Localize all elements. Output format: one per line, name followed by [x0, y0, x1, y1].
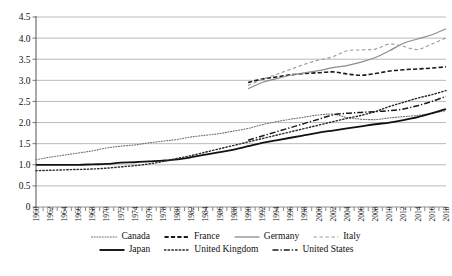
- legend-item-united-kingdom[interactable]: United Kingdom: [164, 244, 258, 255]
- legend-label-france: France: [194, 231, 220, 242]
- x-tick-label: 1986: [216, 206, 225, 221]
- y-tick-label: 3.0: [19, 76, 31, 86]
- x-tick-label: 1966: [74, 206, 83, 221]
- y-tick-label: 4.5: [19, 12, 31, 22]
- series-line-japan: [36, 109, 446, 165]
- y-tick-label: 1.5: [19, 139, 31, 149]
- x-tick-label: 2004: [343, 206, 352, 221]
- x-tick-label: 2012: [399, 206, 408, 221]
- x-tick-label: 1998: [300, 206, 309, 221]
- x-tick-label: 1962: [46, 206, 55, 221]
- y-tick-label: 0.5: [19, 181, 31, 191]
- legend-swatch-japan: [99, 245, 125, 255]
- legend-row-2: JapanUnited KingdomUnited States: [92, 244, 361, 255]
- x-tick-label: 2006: [357, 206, 366, 221]
- legend-swatch-united-states: [272, 245, 298, 255]
- legend-label-united-kingdom: United Kingdom: [194, 244, 258, 255]
- legend-row-1: CanadaFranceGermanyItaly: [84, 231, 367, 242]
- legend-swatch-canada: [91, 232, 117, 242]
- series-line-united-kingdom: [36, 90, 446, 170]
- legend-swatch-germany: [234, 232, 260, 242]
- x-tick-label: 2010: [385, 206, 394, 221]
- x-axis-ticks: 1960196219641966196819701972197419761978…: [32, 206, 451, 221]
- x-tick-label: 1984: [201, 206, 210, 221]
- x-tick-label: 2008: [371, 206, 380, 221]
- legend-label-japan: Japan: [129, 244, 151, 255]
- series-line-canada: [36, 111, 446, 160]
- legend-label-italy: Italy: [343, 231, 360, 242]
- x-tick-label: 1960: [32, 206, 41, 221]
- x-tick-label: 2002: [329, 206, 338, 221]
- y-tick-label: 0: [26, 202, 31, 212]
- y-axis-ticks: 00.51.01.52.02.53.03.54.04.5: [19, 12, 36, 212]
- chart-legend: CanadaFranceGermanyItalyJapanUnited King…: [0, 231, 452, 255]
- legend-label-united-states: United States: [302, 244, 353, 255]
- legend-swatch-italy: [313, 232, 339, 242]
- legend-item-france[interactable]: France: [164, 231, 220, 242]
- x-tick-label: 1970: [102, 206, 111, 221]
- x-tick-label: 1994: [272, 206, 281, 221]
- x-tick-label: 2018: [442, 206, 451, 221]
- x-tick-label: 1992: [258, 206, 267, 221]
- y-tick-label: 4.0: [19, 34, 31, 44]
- x-tick-label: 2000: [315, 206, 324, 221]
- y-tick-label: 2.0: [19, 118, 31, 128]
- x-tick-label: 1982: [187, 206, 196, 221]
- x-tick-label: 1996: [286, 206, 295, 221]
- legend-label-germany: Germany: [264, 231, 299, 242]
- legend-item-canada[interactable]: Canada: [91, 231, 150, 242]
- legend-swatch-france: [164, 232, 190, 242]
- y-tick-label: 1.0: [19, 160, 31, 170]
- x-tick-label: 1990: [244, 206, 253, 221]
- legend-label-canada: Canada: [121, 231, 150, 242]
- y-tick-label: 2.5: [19, 97, 31, 107]
- data-series-layer: [36, 29, 446, 171]
- legend-swatch-united-kingdom: [164, 245, 190, 255]
- line-chart: 00.51.01.52.02.53.03.54.04.5 19601962196…: [0, 0, 452, 276]
- x-tick-label: 1964: [60, 206, 69, 221]
- legend-item-united-states[interactable]: United States: [272, 244, 353, 255]
- legend-item-germany[interactable]: Germany: [234, 231, 299, 242]
- legend-item-japan[interactable]: Japan: [99, 244, 151, 255]
- x-tick-label: 2014: [414, 206, 423, 221]
- x-tick-label: 1968: [88, 206, 97, 221]
- x-tick-label: 1972: [117, 206, 126, 221]
- x-tick-label: 2016: [428, 206, 437, 221]
- y-tick-label: 3.5: [19, 55, 31, 65]
- x-tick-label: 1976: [145, 206, 154, 221]
- x-tick-label: 1980: [173, 206, 182, 221]
- x-tick-label: 1978: [159, 206, 168, 221]
- x-tick-label: 1974: [131, 206, 140, 221]
- x-tick-label: 1988: [230, 206, 239, 221]
- gridlines: [36, 17, 446, 186]
- legend-item-italy[interactable]: Italy: [313, 231, 360, 242]
